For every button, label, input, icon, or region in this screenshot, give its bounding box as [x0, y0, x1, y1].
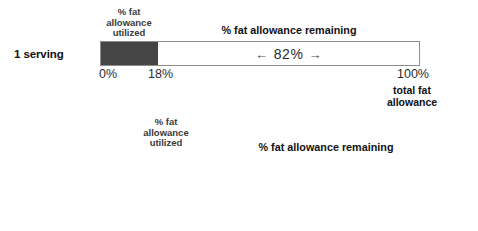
bar-segment-remaining-1: ←82%→: [158, 42, 419, 65]
bar-segment-utilized-1: [101, 42, 158, 65]
caption-remaining-1: % fat allowance remaining: [158, 24, 420, 36]
chart-row-2-servings: 2 servings % fat allowance utilized % fa…: [0, 112, 478, 231]
caption-utilized-line-1: % fat: [100, 117, 232, 128]
total-allowance-line-1: total fat: [352, 84, 472, 96]
total-allowance-note-1: total fat allowance: [352, 84, 472, 109]
remaining-value-1: 82%: [274, 46, 304, 62]
caption-utilized-line-3: utilized: [100, 138, 232, 149]
caption-utilized-line-3: utilized: [100, 28, 158, 39]
caption-utilized-2: % fat allowance utilized: [100, 117, 232, 149]
caption-remaining-2: % fat allowance remaining: [232, 141, 420, 153]
chart-row-1-serving: 1 serving % fat allowance utilized % fat…: [0, 0, 478, 112]
total-allowance-line-2: allowance: [352, 96, 472, 108]
tick-end-1: 100%: [397, 67, 429, 81]
caption-utilized-1: % fat allowance utilized: [100, 7, 158, 39]
caption-utilized-line-1: % fat: [100, 7, 158, 18]
remaining-inline-label-1: ←82%→: [250, 46, 327, 62]
tick-mid-1: 18%: [148, 67, 173, 81]
arrow-right-icon: →: [304, 47, 328, 62]
bar-track-1-serving: ←82%→: [100, 41, 420, 66]
row-label-1-serving: 1 serving: [14, 48, 100, 60]
fat-allowance-figure: { "chart_data": { "type": "bar", "title"…: [0, 0, 478, 231]
tick-start-1: 0%: [99, 67, 117, 81]
arrow-left-icon: ←: [250, 47, 274, 62]
